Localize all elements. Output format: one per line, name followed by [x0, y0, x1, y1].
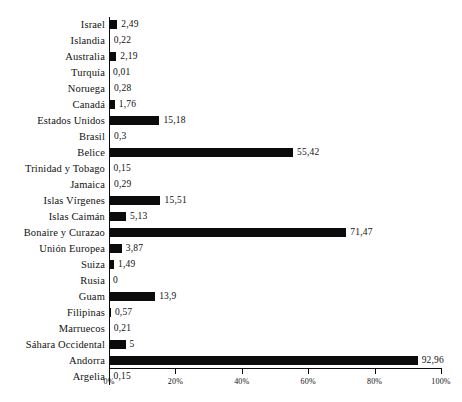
bar: [109, 52, 116, 61]
value-label: 0,21: [114, 321, 131, 337]
category-label: Brasil: [79, 129, 105, 145]
category-label: Bonaire y Curazao: [24, 225, 105, 241]
chart-row: Israel2,49: [0, 17, 462, 33]
value-label: 3,87: [126, 241, 143, 257]
chart-row: Marruecos0,21: [0, 321, 462, 337]
bar: [109, 340, 126, 349]
bar: [109, 244, 122, 253]
category-label: Filipinas: [67, 305, 105, 321]
bar: [109, 292, 155, 301]
chart-row: Turquía0,01: [0, 65, 462, 81]
x-axis-tick: [175, 368, 176, 374]
value-label: 13,9: [159, 289, 176, 305]
chart-row: Unión Europea3,87: [0, 241, 462, 257]
x-axis-tick: [441, 368, 442, 374]
chart-row: Sáhara Occidental5: [0, 337, 462, 353]
category-label: Rusia: [80, 273, 105, 289]
bar-track: 13,9: [109, 289, 462, 305]
x-axis-tick: [308, 368, 309, 374]
bar-track: 0,15: [109, 369, 462, 385]
bar-track: 71,47: [109, 225, 462, 241]
category-label: Jamaica: [70, 177, 105, 193]
value-label: 1,76: [119, 97, 136, 113]
bar-track: 0,22: [109, 33, 462, 49]
category-label: Suiza: [81, 257, 105, 273]
chart-row: Filipinas0,57: [0, 305, 462, 321]
value-label: 1,49: [118, 257, 135, 273]
bar-track: 0,01: [109, 65, 462, 81]
value-label: 0,3: [114, 129, 126, 145]
chart-row: Andorra92,96: [0, 353, 462, 369]
chart-row: Brasil0,3: [0, 129, 462, 145]
bar-track: 3,87: [109, 241, 462, 257]
value-label: 15,18: [163, 113, 185, 129]
chart-row: Trinidad y Tobago0,15: [0, 161, 462, 177]
chart-row: Australia2,19: [0, 49, 462, 65]
bar-track: 0,29: [109, 177, 462, 193]
category-label: Unión Europea: [39, 241, 105, 257]
bar: [109, 228, 346, 237]
chart-row: Islas Caimán5,13: [0, 209, 462, 225]
bar: [109, 196, 160, 205]
value-label: 0,22: [114, 33, 131, 49]
value-label: 0,15: [114, 369, 131, 385]
value-label: 2,19: [120, 49, 137, 65]
category-label: Israel: [81, 17, 105, 33]
x-axis-tick-label: 100%: [431, 377, 450, 386]
category-label: Sáhara Occidental: [26, 337, 105, 353]
bar: [109, 148, 293, 157]
chart-row: Islandia0,22: [0, 33, 462, 49]
value-label: 0: [113, 273, 118, 289]
bar-track: 0,28: [109, 81, 462, 97]
bar: [109, 356, 418, 365]
value-label: 5,13: [130, 209, 147, 225]
x-axis-tick: [109, 368, 110, 374]
category-label: Islas Caimán: [49, 209, 105, 225]
x-axis-tick-label: 20%: [168, 377, 183, 386]
horizontal-bar-chart: Israel2,49Islandia0,22Australia2,19Turqu…: [0, 0, 462, 402]
category-label: Estados Unidos: [37, 113, 105, 129]
bar-track: 0,3: [109, 129, 462, 145]
category-label: Islas Vírgenes: [44, 193, 106, 209]
x-axis-tick-label: 0%: [103, 377, 114, 386]
category-label: Trinidad y Tobago: [25, 161, 105, 177]
category-label: Australia: [65, 49, 105, 65]
value-label: 0,01: [113, 65, 130, 81]
value-label: 0,57: [115, 305, 132, 321]
category-label: Islandia: [71, 33, 105, 49]
x-axis-tick: [375, 368, 376, 374]
chart-row: Guam13,9: [0, 289, 462, 305]
bar-track: 5,13: [109, 209, 462, 225]
category-label: Argelia: [73, 369, 105, 385]
chart-rows: Israel2,49Islandia0,22Australia2,19Turqu…: [0, 17, 462, 385]
value-label: 5: [130, 337, 135, 353]
category-label: Andorra: [69, 353, 105, 369]
chart-row: Islas Vírgenes15,51: [0, 193, 462, 209]
category-label: Canadá: [73, 97, 105, 113]
chart-row: Canadá1,76: [0, 97, 462, 113]
category-axis-line: [109, 17, 110, 385]
bar-track: 0,15: [109, 161, 462, 177]
category-label: Marruecos: [59, 321, 105, 337]
chart-row: Bonaire y Curazao71,47: [0, 225, 462, 241]
chart-row: Argelia0,15: [0, 369, 462, 385]
bar-track: 2,19: [109, 49, 462, 65]
category-label: Guam: [79, 289, 105, 305]
x-axis-tick-label: 80%: [367, 377, 382, 386]
value-label: 71,47: [350, 225, 372, 241]
chart-row: Jamaica0,29: [0, 177, 462, 193]
category-label: Noruega: [68, 81, 105, 97]
bar: [109, 20, 117, 29]
chart-row: Noruega0,28: [0, 81, 462, 97]
bar: [109, 212, 126, 221]
value-label: 0,15: [114, 161, 131, 177]
value-axis-line: [109, 368, 442, 369]
bar-track: 15,18: [109, 113, 462, 129]
value-label: 0,29: [114, 177, 131, 193]
value-label: 92,96: [422, 353, 444, 369]
x-axis-tick-label: 40%: [234, 377, 249, 386]
bar-track: 2,49: [109, 17, 462, 33]
value-label: 0,28: [114, 81, 131, 97]
bar-track: 1,49: [109, 257, 462, 273]
chart-row: Estados Unidos15,18: [0, 113, 462, 129]
